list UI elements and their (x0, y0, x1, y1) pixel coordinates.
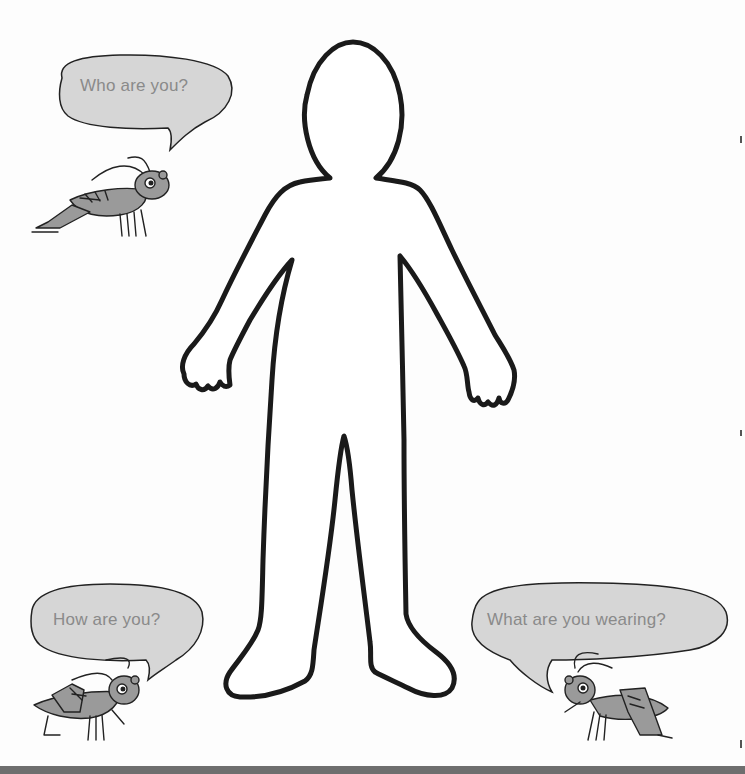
cricket-illustration-top-left (32, 157, 169, 236)
speech-text-how-are-you: How are you? (53, 610, 160, 630)
scan-edge-mark (740, 740, 742, 748)
worksheet-artwork (0, 0, 745, 774)
speech-text-who-are-you: Who are you? (80, 76, 188, 96)
cricket-illustration-bottom-right (565, 653, 672, 740)
page-bottom-border (0, 766, 745, 774)
speech-bubble-bottom-left (31, 584, 203, 680)
cricket-illustration-bottom-left (34, 658, 139, 740)
speech-bubble-top-left (60, 55, 232, 150)
speech-bubble-bottom-right (472, 583, 728, 692)
worksheet-page: Who are you? How are you? What are you w… (0, 0, 745, 774)
speech-text-what-are-you-wearing: What are you wearing? (487, 610, 666, 630)
scan-edge-mark (740, 136, 742, 143)
body-outline-figure (182, 42, 514, 697)
scan-edge-mark (740, 430, 742, 436)
